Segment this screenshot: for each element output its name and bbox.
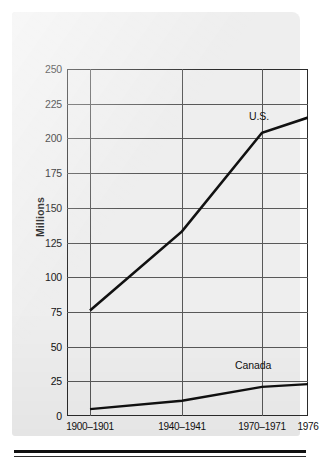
x-tick-0: 1900–1901: [66, 421, 113, 432]
series-label-us: U.S.: [249, 110, 269, 122]
y-tick-225: 225: [45, 98, 62, 110]
series-line-canada: [90, 384, 308, 409]
y-tick-200: 200: [45, 132, 62, 144]
series-label-canada: Canada: [235, 359, 271, 371]
footer-rule-thick: [14, 450, 306, 453]
y-tick-125: 125: [45, 237, 62, 249]
line-chart: 0255075100125150175200225250 1900–190119…: [67, 69, 308, 416]
y-tick-250: 250: [45, 63, 62, 75]
y-tick-25: 25: [51, 375, 62, 387]
series-lines: [67, 69, 308, 416]
y-tick-175: 175: [45, 167, 62, 179]
y-tick-50: 50: [51, 341, 62, 353]
y-tick-0: 0: [56, 410, 62, 422]
x-tick-1: 1940–1941: [158, 421, 205, 432]
y-tick-100: 100: [45, 271, 62, 283]
x-tick-2: 1970–1971: [238, 421, 285, 432]
y-tick-150: 150: [45, 202, 62, 214]
y-tick-75: 75: [51, 306, 62, 318]
x-tick-3: 1976: [297, 421, 318, 432]
series-line-us: [90, 118, 308, 311]
footer-rule-thin: [14, 456, 306, 457]
figure-panel: Millions 0255075100125150175200225250 19…: [12, 12, 300, 436]
